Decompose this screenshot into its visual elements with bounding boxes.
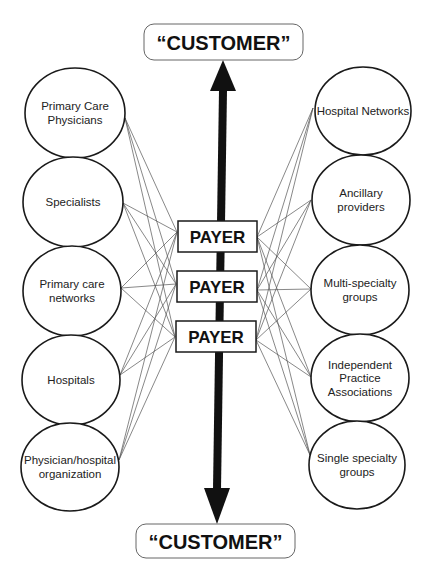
- connector-line: [119, 284, 176, 460]
- connector-line: [119, 337, 175, 460]
- provider-nodes-left: Primary CarePhysiciansSpecialistsPrimary…: [21, 68, 125, 511]
- customer-box-top: “CUSTOMER”: [144, 24, 303, 60]
- provider-node-right: Single specialtygroups: [309, 421, 405, 509]
- customer-label-top: “CUSTOMER”: [156, 32, 290, 54]
- connector-line: [120, 337, 175, 375]
- node-label: Primary care: [39, 278, 104, 290]
- connector-line: [257, 290, 311, 377]
- connector-line: [257, 108, 313, 290]
- node-label: organization: [39, 468, 102, 480]
- node-label: Hospital Networks: [317, 105, 410, 117]
- connector-line: [125, 118, 177, 232]
- connector-line: [119, 232, 177, 460]
- node-label: networks: [49, 292, 95, 304]
- customer-label-bottom: “CUSTOMER”: [148, 531, 282, 553]
- connector-line: [257, 289, 311, 290]
- node-label: Physician/hospital: [24, 454, 116, 466]
- node-label: groups: [342, 291, 377, 303]
- payer-label: PAYER: [188, 328, 244, 347]
- payer-label: PAYER: [190, 228, 246, 247]
- connector-line: [257, 237, 311, 377]
- payer-boxes: PAYERPAYERPAYER: [176, 221, 257, 352]
- node-label: Ancillary: [339, 187, 383, 199]
- connector-line: [121, 284, 176, 288]
- connector-line: [120, 232, 177, 375]
- node-label: Specialists: [46, 196, 101, 208]
- provider-node-right: Ancillaryproviders: [312, 155, 410, 245]
- node-label: Single specialty: [317, 452, 397, 464]
- node-label: Physicians: [48, 114, 103, 126]
- node-label: Hospitals: [47, 374, 95, 386]
- payer-box: PAYER: [176, 321, 256, 352]
- provider-node-left: Physician/hospitalorganization: [21, 423, 119, 511]
- provider-node-right: Multi-specialtygroups: [311, 245, 409, 335]
- node-label: Primary Care: [41, 100, 109, 112]
- provider-nodes-right: Hospital NetworksAncillaryprovidersMulti…: [309, 67, 411, 509]
- provider-node-right: IndependentPracticeAssociations: [311, 334, 409, 422]
- provider-node-left: Hospitals: [22, 335, 120, 425]
- node-label: providers: [337, 201, 385, 213]
- node-label: groups: [339, 466, 374, 478]
- node-label: Multi-specialty: [324, 277, 397, 289]
- provider-node-left: Specialists: [23, 157, 123, 247]
- node-label: Practice: [339, 372, 381, 384]
- payer-label: PAYER: [189, 278, 245, 297]
- node-label: Associations: [328, 386, 393, 398]
- connector-line: [256, 108, 313, 340]
- arrow-head-down-icon: [204, 488, 230, 524]
- provider-node-left: Primary CarePhysicians: [25, 68, 125, 158]
- node-label: Independent: [328, 359, 393, 371]
- payer-customer-diagram: “CUSTOMER” “CUSTOMER” PAYERPAYERPAYER Pr…: [0, 0, 431, 584]
- connector-line: [256, 340, 310, 455]
- payer-box: PAYER: [178, 221, 257, 252]
- provider-node-left: Primary carenetworks: [23, 246, 121, 336]
- provider-node-right: Hospital Networks: [315, 67, 411, 155]
- arrow-head-up-icon: [210, 60, 236, 91]
- payer-box: PAYER: [177, 271, 257, 302]
- connector-line: [120, 284, 176, 375]
- connector-line: [125, 118, 176, 284]
- customer-box-bottom: “CUSTOMER”: [136, 524, 295, 558]
